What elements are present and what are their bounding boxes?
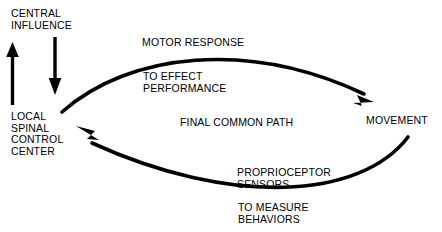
edge-label-to-measure-behaviors: TO MEASURE BEHAVIORS [238,202,309,225]
descending-command-arrow [49,37,62,95]
edge-label-to-effect-performance: TO EFFECT PERFORMANCE [143,71,226,94]
diagram-canvas: CENTRAL INFLUENCE LOCAL SPINAL CONTROL C… [0,0,442,232]
node-label-movement: MOVEMENT [366,115,428,127]
edge-label-final-common-path: FINAL COMMON PATH [180,117,293,129]
ascending-feedback-arrow [6,42,19,105]
edge-label-proprioceptor-sensors: PROPRIOCEPTOR SENSORS [237,167,331,190]
edge-label-motor-response: MOTOR RESPONSE [142,37,244,49]
node-label-local-spinal-control-center: LOCAL SPINAL CONTROL CENTER [11,111,63,157]
node-label-central-influence: CENTRAL INFLUENCE [11,8,72,31]
